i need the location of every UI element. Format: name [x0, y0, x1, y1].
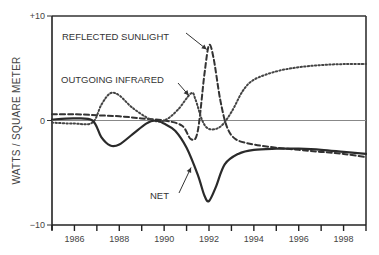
x-tick-label: 1990 [154, 234, 174, 244]
x-tick-label: 1998 [334, 234, 354, 244]
x-tick-label: 1994 [244, 234, 264, 244]
series-line-net [52, 118, 366, 201]
line-chart: WATTS / SQUARE METER +100−10198619881990… [0, 0, 379, 255]
x-tick-label: 1996 [289, 234, 309, 244]
annotation-label: OUTGOING INFRARED [61, 74, 164, 85]
x-tick-label: 1986 [64, 234, 84, 244]
annotation-label: NET [150, 190, 169, 201]
annotation-label: REFLECTED SUNLIGHT [62, 31, 169, 42]
y-axis-label: WATTS / SQUARE METER [11, 56, 22, 184]
y-tick-label: 0 [40, 116, 45, 126]
y-tick-label: +10 [30, 11, 45, 21]
y-tick-label: −10 [30, 220, 45, 230]
x-tick-label: 1992 [199, 234, 219, 244]
series-line-reflected-sunlight [52, 45, 366, 157]
x-tick-label: 1988 [109, 234, 129, 244]
